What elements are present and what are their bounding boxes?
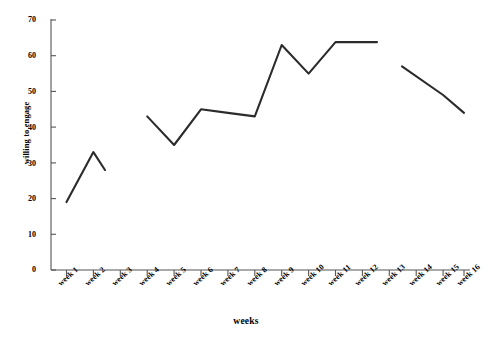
line-chart: willing to engage 70 60 50 40 30 20 10 0 (0, 0, 492, 340)
data-line (67, 42, 465, 202)
x-axis-title: weeks (0, 316, 492, 326)
data-line-segment-3 (402, 66, 464, 113)
y-axis-ticks (51, 20, 56, 270)
data-line-segment-1 (67, 152, 106, 202)
plot-area (0, 0, 492, 340)
data-line-segment-2 (147, 42, 377, 145)
